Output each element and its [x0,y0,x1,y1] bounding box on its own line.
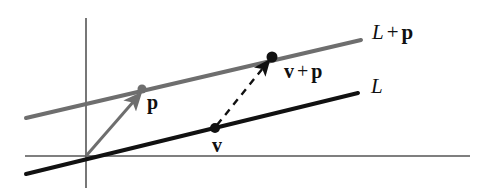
label-point-v-plus-p-base: v [284,60,294,82]
label-line-L: L [371,76,383,97]
label-line-L-plus-p-base: L [372,20,384,44]
label-line-L-plus-p: L+p [372,22,413,43]
point-v-plus-p-dot [267,52,278,63]
label-point-v: v [212,135,222,155]
label-point-p: p [147,92,158,112]
point-v-dot [210,123,220,133]
diagram-canvas [0,0,494,188]
label-line-L-plus-p-operator: + [384,20,402,44]
label-line-L-plus-p-vector: p [402,20,414,44]
vector-diagram-figure: L+p L v+p p v [0,0,494,188]
label-point-v-plus-p-vector: p [311,60,322,82]
label-point-v-plus-p-operator: + [294,60,311,82]
label-point-v-plus-p: v+p [284,61,322,81]
point-p-dot [138,85,147,94]
